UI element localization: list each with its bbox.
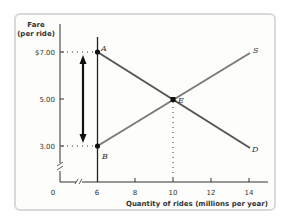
label-E: E	[177, 96, 184, 105]
x-axis-label: Quantity of rides (millions per year)	[126, 200, 268, 208]
y-tick-5: 5.00	[39, 96, 55, 104]
supply-demand-chart: Fare (per ride) $7.00 5.00 3.00 0 6 8 10…	[0, 0, 289, 223]
point-E	[171, 97, 176, 102]
double-arrow-icon	[80, 55, 87, 143]
x-tick-6: 6	[95, 189, 100, 197]
y-axis-label-line1: Fare	[27, 21, 45, 29]
x-tick-12: 12	[207, 189, 216, 197]
x-tick-8: 8	[133, 189, 137, 197]
x-tick-14: 14	[245, 189, 254, 197]
label-A: A	[100, 44, 107, 53]
y-tick-3: 3.00	[39, 143, 55, 151]
y-axis-break-icon	[57, 162, 63, 170]
y-tick-7: $7.00	[35, 49, 55, 57]
label-B: B	[101, 152, 108, 161]
x-axis-break-icon	[75, 179, 82, 184]
x-tick-10: 10	[169, 189, 178, 197]
label-S: S	[253, 46, 259, 55]
point-A	[95, 49, 100, 54]
x-tick-0: 0	[51, 189, 55, 197]
y-axis-label-line2: (per ride)	[17, 30, 55, 38]
label-D: D	[251, 145, 259, 154]
point-B	[95, 143, 100, 148]
